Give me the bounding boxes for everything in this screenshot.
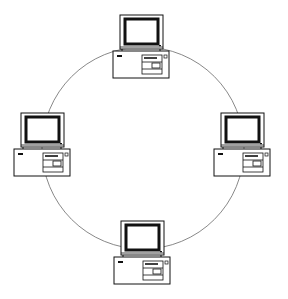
desktop-computer-icon bbox=[113, 15, 169, 78]
computer-left-node bbox=[14, 113, 70, 176]
computer-bottom-node bbox=[114, 221, 170, 284]
computer-right-node bbox=[214, 113, 270, 176]
computer-top-node bbox=[113, 15, 169, 78]
desktop-computer-icon bbox=[114, 221, 170, 284]
desktop-computer-icon bbox=[14, 113, 70, 176]
desktop-computer-icon bbox=[214, 113, 270, 176]
ring-network-diagram bbox=[0, 0, 288, 299]
